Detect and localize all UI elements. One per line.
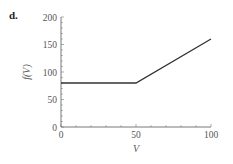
y-axis-label: f(V) (21, 64, 33, 80)
y-tick-label: 50 (48, 95, 58, 105)
panel-label: d. (9, 9, 18, 21)
x-tick-label: 0 (59, 130, 64, 140)
chart: d. 050100150200050100 V f(V) (0, 0, 233, 164)
ticks (61, 17, 211, 127)
x-axis-label: V (133, 143, 141, 154)
x-tick-label: 100 (204, 130, 219, 140)
chart-svg: 050100150200050100 V f(V) (0, 0, 233, 164)
x-tick-label: 50 (131, 130, 141, 140)
y-tick-label: 150 (43, 40, 58, 50)
y-tick-label: 0 (52, 123, 57, 133)
axes (61, 17, 211, 127)
data-line (61, 39, 211, 83)
y-tick-label: 200 (43, 13, 58, 23)
y-tick-label: 100 (43, 68, 58, 78)
tick-labels: 050100150200050100 (43, 13, 219, 141)
